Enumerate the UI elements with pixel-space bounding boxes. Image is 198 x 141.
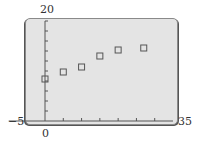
square-marker xyxy=(79,64,85,70)
axes xyxy=(9,21,173,121)
y-max-label: 20 xyxy=(40,4,54,15)
x-min-label: −5 xyxy=(8,116,24,127)
origin-label: 0 xyxy=(42,128,49,139)
scatter-plot xyxy=(0,0,198,141)
square-marker xyxy=(115,47,121,53)
x-max-label: 35 xyxy=(178,116,192,127)
square-marker xyxy=(97,53,103,59)
data-markers xyxy=(42,45,147,82)
square-marker xyxy=(141,45,147,51)
square-marker xyxy=(60,69,66,75)
